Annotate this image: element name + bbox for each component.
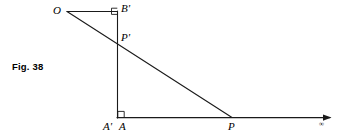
point-label-A: A [119, 121, 126, 132]
point-label-B-prime: B' [121, 3, 130, 14]
point-label-P-prime: P' [121, 32, 130, 43]
right-angle-marker-A-icon [118, 111, 124, 117]
point-label-O: O [53, 5, 61, 16]
figure-caption: Fig. 38 [12, 61, 44, 72]
segment-O-to-P [67, 12, 232, 118]
point-label-A-prime: A' [103, 121, 112, 132]
point-label-P: P [228, 121, 235, 132]
figure-38-container: Fig. 38 O B' P' A' A P ∞ [0, 0, 341, 137]
infinity-label: ∞ [319, 121, 324, 128]
axis-arrowhead-icon [323, 114, 332, 120]
geometry-diagram [0, 0, 341, 137]
